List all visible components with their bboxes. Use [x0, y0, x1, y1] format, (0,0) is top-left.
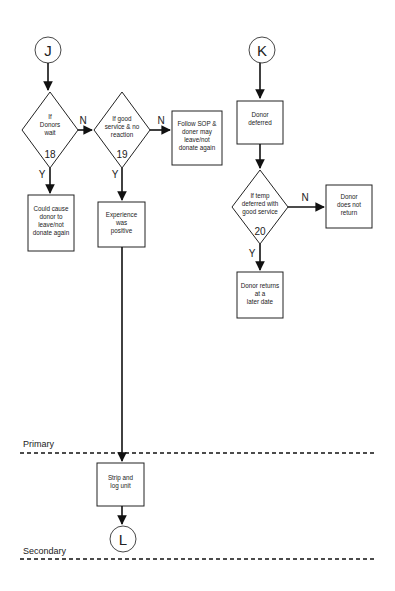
decision-19: If good service & no reaction 19 — [94, 92, 150, 168]
svg-text:donate again: donate again — [33, 229, 70, 237]
svg-text:at a: at a — [255, 290, 266, 297]
svg-text:Experience: Experience — [106, 211, 138, 219]
svg-text:Donor returns: Donor returns — [241, 282, 280, 289]
svg-text:wait: wait — [43, 129, 55, 136]
svg-text:18: 18 — [44, 149, 56, 160]
process-strip-log-unit: Strip and log unit — [97, 463, 144, 506]
svg-text:Follow SOP &: Follow SOP & — [177, 120, 217, 127]
decision-20: If temp deferred with good service 20 — [232, 170, 288, 244]
label-no-19: N — [157, 115, 164, 126]
flowchart: J If Donors wait 18 N Y Could cause dono… — [0, 0, 395, 591]
svg-text:If: If — [48, 113, 52, 120]
process-donor-deferred: Donor deferred — [237, 101, 283, 144]
svg-text:later date: later date — [247, 298, 274, 305]
svg-text:was: was — [115, 219, 127, 226]
svg-text:service & no: service & no — [105, 123, 140, 130]
svg-text:leave/not: leave/not — [184, 136, 210, 143]
decision-18: If Donors wait 18 — [22, 92, 78, 168]
svg-text:positive: positive — [111, 227, 133, 235]
connector-j: J — [35, 37, 61, 63]
process-follow-sop: Follow SOP & doner may leave/not donate … — [172, 111, 222, 165]
svg-text:If good: If good — [112, 115, 132, 123]
svg-text:20: 20 — [254, 226, 266, 237]
label-no-18: N — [79, 115, 86, 126]
label-yes-20: Y — [249, 248, 256, 259]
svg-text:Donor: Donor — [251, 111, 268, 118]
svg-text:L: L — [119, 531, 127, 548]
process-could-cause: Could cause donor to leave/not donate ag… — [28, 195, 74, 251]
svg-text:deferred with: deferred with — [242, 200, 279, 207]
lane-label-secondary: Secondary — [23, 546, 67, 556]
svg-text:K: K — [257, 42, 267, 59]
svg-text:log unit: log unit — [110, 482, 131, 490]
svg-text:does not: does not — [337, 201, 361, 208]
process-donor-does-not-return: Donor does not return — [326, 185, 372, 228]
svg-text:return: return — [341, 209, 358, 216]
svg-text:reaction: reaction — [111, 131, 134, 138]
svg-text:J: J — [44, 42, 52, 59]
process-donor-returns-later: Donor returns at a later date — [237, 272, 283, 318]
svg-text:leave/not: leave/not — [38, 221, 64, 228]
svg-text:If temp: If temp — [250, 192, 270, 200]
svg-text:deferred: deferred — [248, 119, 272, 126]
label-yes-18: Y — [39, 169, 46, 180]
connector-k: K — [249, 37, 275, 63]
svg-text:doner may: doner may — [182, 128, 213, 136]
label-no-20: N — [301, 192, 308, 203]
svg-text:Donor: Donor — [340, 193, 357, 200]
process-experience-positive: Experience was positive — [98, 202, 145, 247]
connector-l: L — [110, 526, 136, 552]
label-yes-19: Y — [112, 169, 119, 180]
lane-label-primary: Primary — [23, 439, 54, 449]
svg-text:Strip and: Strip and — [108, 474, 134, 482]
svg-text:good service: good service — [242, 208, 278, 216]
svg-text:Could cause: Could cause — [33, 205, 69, 212]
svg-text:Donors: Donors — [40, 121, 60, 128]
svg-text:19: 19 — [116, 149, 128, 160]
svg-text:donor to: donor to — [39, 213, 63, 220]
svg-text:donate again: donate again — [179, 144, 216, 152]
